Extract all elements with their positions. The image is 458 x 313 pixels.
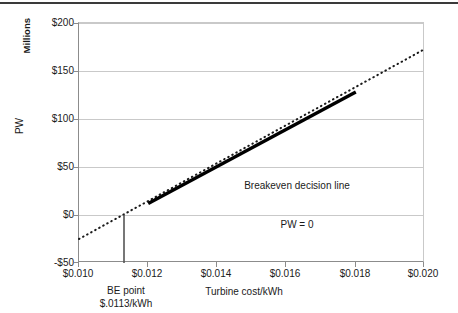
x-tick-label: $0.020	[408, 268, 439, 279]
x-tick-mark	[355, 262, 356, 267]
x-tick-label: $0.014	[201, 268, 232, 279]
y-axis-tick-labels: $200 $150 $100 $50 $0 -$50	[36, 22, 74, 262]
be-point-callout-value: $.0113/kWh	[100, 297, 153, 310]
x-tick-label: $0.018	[340, 268, 371, 279]
x-tick-mark	[147, 262, 148, 267]
x-axis-title: Turbine cost/kWh	[0, 286, 458, 297]
x-tick-label: $0.010	[63, 268, 94, 279]
y-tick-label: $150	[52, 65, 74, 76]
pw-zero-label: PW = 0	[280, 219, 313, 230]
series-dotted-extrapolation	[79, 49, 425, 239]
x-tick-mark	[78, 262, 79, 267]
x-tick-label: $0.016	[270, 268, 301, 279]
x-tick-mark	[216, 262, 217, 267]
x-tick-label: $0.012	[132, 268, 163, 279]
y-axis-units-title: Millions	[21, 18, 32, 53]
be-point-callout-title: BE point	[100, 284, 153, 297]
plot-area: Breakeven decision line PW = 0	[78, 22, 424, 262]
y-tick-label: $0	[63, 209, 74, 220]
y-tick-label: -$50	[54, 257, 74, 268]
x-tick-mark	[285, 262, 286, 267]
y-tick-label: $100	[52, 113, 74, 124]
top-rule-divider	[0, 2, 458, 4]
x-axis-tick-labels: $0.010 $0.012 $0.014 $0.016 $0.018 $0.02…	[78, 268, 424, 282]
y-tick-label: $50	[57, 161, 74, 172]
y-tick-label: $200	[52, 17, 74, 28]
chart-figure: Millions PW Turbine cost/kWh $200 $150 $…	[0, 0, 458, 313]
be-point-callout: BE point $.0113/kWh	[100, 284, 153, 310]
breakeven-decision-line-label: Breakeven decision line	[244, 180, 350, 191]
series-layer	[79, 23, 425, 263]
x-tick-mark	[423, 262, 424, 267]
y-axis-title: PW	[14, 118, 25, 134]
x-axis-title-text: Turbine cost/kWh	[205, 286, 282, 297]
